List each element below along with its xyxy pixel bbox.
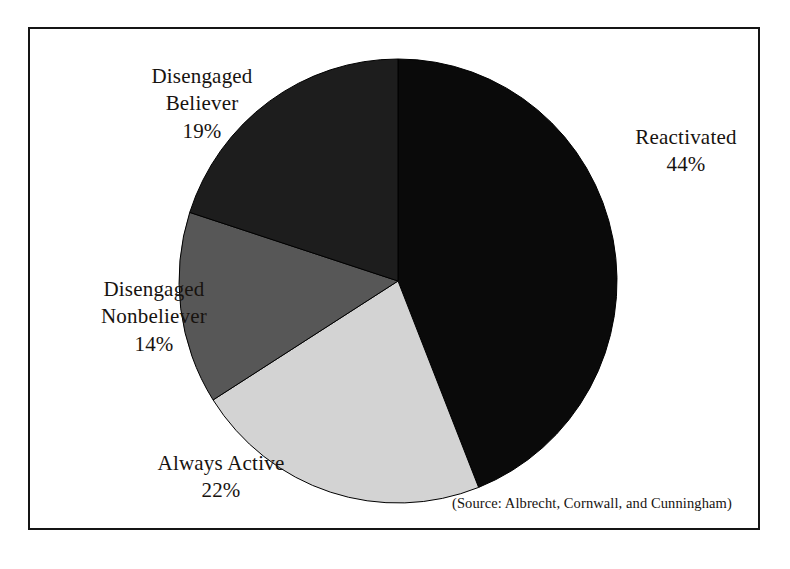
slice-label-name-line2: Believer [104,90,300,117]
slice-label-percent: 44% [596,151,776,178]
source-attribution-note: (Source: Albrecht, Cornwall, and Cunning… [452,495,732,512]
slice-label-name-line1: Disengaged [48,276,260,303]
slice-label-always-active: Always Active 22% [118,450,324,505]
slice-label-percent: 14% [48,331,260,358]
slice-label-name-line1: Disengaged [104,63,300,90]
slice-label-percent: 19% [104,118,300,145]
slice-label-name-line2: Nonbeliever [48,303,260,330]
slice-label-reactivated: Reactivated 44% [596,124,776,179]
slice-label-name: Reactivated [596,124,776,151]
slice-label-name: Always Active [118,450,324,477]
slice-label-disengaged-believer: Disengaged Believer 19% [104,63,300,145]
pie-chart-figure: Disengaged Believer 19% Disengaged Nonbe… [0,0,790,569]
slice-label-percent: 22% [118,477,324,504]
slice-label-disengaged-nonbeliever: Disengaged Nonbeliever 14% [48,276,260,358]
